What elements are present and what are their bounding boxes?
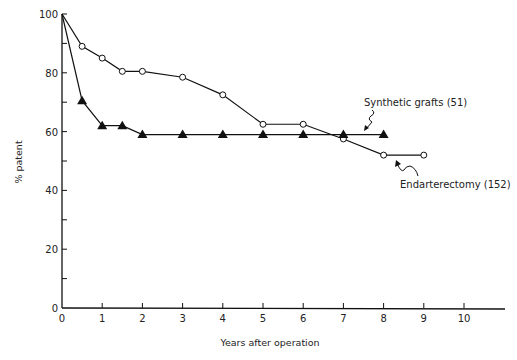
- x-axis-title: Years after operation: [219, 337, 319, 348]
- x-tick-label: 7: [340, 313, 346, 324]
- x-tick-label: 4: [220, 313, 226, 324]
- x-tick-label: 1: [99, 313, 105, 324]
- annotations: Synthetic grafts (51)Endarterectomy (152…: [364, 97, 511, 190]
- filled-triangle-marker: [258, 130, 268, 139]
- open-circle-marker: [180, 74, 186, 80]
- y-tick-label: 20: [45, 244, 58, 255]
- filled-triangle-marker: [117, 121, 127, 130]
- y-axis-title: % patent: [13, 140, 24, 183]
- open-circle-marker: [79, 43, 85, 49]
- open-circle-marker: [381, 152, 387, 158]
- x-tick-label: 10: [458, 313, 471, 324]
- open-circle-marker: [119, 68, 125, 74]
- x-tick-label: 9: [421, 313, 427, 324]
- open-circle-marker: [99, 55, 105, 61]
- filled-triangle-marker: [298, 130, 308, 139]
- filled-triangle-marker: [379, 130, 389, 139]
- open-circle-marker: [300, 121, 306, 127]
- y-tick-label: 40: [45, 185, 58, 196]
- open-circle-marker: [421, 152, 427, 158]
- synthetic-grafts-line: [62, 14, 384, 135]
- annotation-arrow: [366, 110, 374, 129]
- y-tick-label: 80: [45, 68, 58, 79]
- filled-triangle-marker: [338, 130, 348, 139]
- x-tick-label: 3: [179, 313, 185, 324]
- open-circle-marker: [260, 121, 266, 127]
- x-tick-label: 8: [380, 313, 386, 324]
- patency-chart: 012345678910020406080100 Synthetic graft…: [0, 0, 517, 360]
- filled-triangle-marker: [137, 130, 147, 139]
- y-tick-label: 100: [39, 9, 58, 20]
- annotation-synthetic-grafts: Synthetic grafts (51): [364, 97, 467, 108]
- x-tick-label: 0: [59, 313, 65, 324]
- y-tick-label: 60: [45, 127, 58, 138]
- open-circle-marker: [220, 92, 226, 98]
- y-tick-label: 0: [52, 303, 58, 314]
- filled-triangle-marker: [77, 96, 87, 105]
- filled-triangle-marker: [178, 130, 188, 139]
- annotation-arrow: [397, 163, 418, 176]
- x-tick-label: 6: [300, 313, 306, 324]
- x-axis-line: [62, 308, 505, 309]
- x-tick-label: 5: [260, 313, 266, 324]
- open-circle-marker: [139, 68, 145, 74]
- axes: 012345678910020406080100: [39, 9, 505, 324]
- series-layer: [62, 14, 427, 158]
- x-tick-label: 2: [139, 313, 145, 324]
- filled-triangle-marker: [218, 130, 228, 139]
- annotation-endarterectomy: Endarterectomy (152): [400, 179, 511, 190]
